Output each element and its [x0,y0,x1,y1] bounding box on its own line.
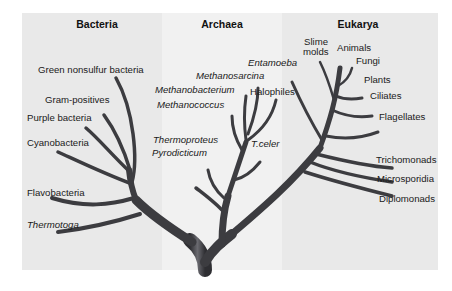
label-halophiles: Halophiles [250,87,295,97]
label-entamoeba: Entamoeba [248,58,297,68]
label-flavobacteria: Flavobacteria [27,188,85,198]
domain-header-archaea: Archaea [201,18,242,30]
label-ciliates: Ciliates [370,91,401,101]
label-methanosarcina: Methanosarcina [196,71,264,81]
label-pyrodicticum: Pyrodicticum [152,148,207,158]
label-methanobacterium: Methanobacterium [155,85,234,95]
label-plants: Plants [364,75,391,85]
domain-header-eukarya: Eukarya [338,18,379,30]
label-trichomonads: Trichomonads [376,155,436,165]
label-t-celer: T.celer [251,139,279,149]
domain-header-bacteria: Bacteria [76,18,117,30]
label-diplomonads: Diplomonads [379,194,435,204]
label-green-nonsulfur-bacteria: Green nonsulfur bacteria [38,65,144,75]
label-fungi: Fungi [356,56,380,66]
label-gram-positives: Gram-positives [45,95,110,105]
label-molds: molds [303,47,329,57]
label-thermoproteus: Thermoproteus [153,135,218,145]
label-animals: Animals [337,43,371,53]
label-methanococcus: Methanococcus [157,100,224,110]
label-cyanobacteria: Cyanobacteria [27,138,89,148]
label-purple-bacteria: Purple bacteria [27,113,92,123]
label-thermotoga: Thermotoga [27,220,79,230]
label-microsporidia: Microsporidia [377,174,434,184]
label-flagellates: Flagellates [379,112,425,122]
